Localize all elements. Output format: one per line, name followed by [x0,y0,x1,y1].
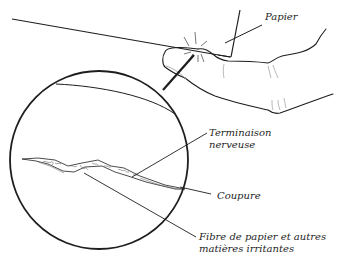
label-fibre-de-papier: Fibre de papier et autres matières irrit… [199,231,326,255]
label-fibre-line1: Fibre de papier et autres [199,231,326,243]
label-fibre-line2: matières irritantes [199,243,326,255]
knuckle-creases [223,64,286,110]
label-papier: Papier [265,11,298,23]
papier-leader-line [225,25,262,43]
coupure-leader-line [180,187,211,194]
label-coupure: Coupure [217,190,261,202]
paper-cut-diagram [0,0,339,268]
pain-burst-icon [184,32,207,62]
label-terminaison-nerveuse: Terminaison nerveuse [209,127,271,151]
label-terminaison-line1: Terminaison [209,127,271,139]
hand-outline [163,29,333,113]
label-terminaison-line2: nerveuse [209,139,271,151]
